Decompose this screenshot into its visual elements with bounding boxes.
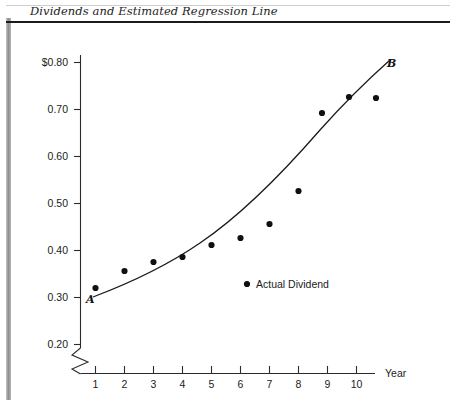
x-tick-label: 5 <box>209 378 215 390</box>
y-tick-label: 0.60 <box>48 150 69 162</box>
y-tick-label: 0.40 <box>48 244 69 256</box>
x-tick-label: 2 <box>122 378 128 390</box>
scatter-points-group <box>92 94 379 291</box>
data-point <box>295 188 301 194</box>
data-point <box>150 259 156 265</box>
x-tick-label: 10 <box>351 378 363 390</box>
y-tick-label: $0.80 <box>42 56 68 68</box>
x-tick-label: 7 <box>267 378 273 390</box>
data-point <box>266 221 272 227</box>
curve-end-label-b: B <box>386 57 396 70</box>
x-tick-label: 1 <box>93 378 99 390</box>
y-tick-label: 0.30 <box>48 291 69 303</box>
x-tick-label: 3 <box>151 378 157 390</box>
x-axis-tick-labels: 1 2 3 4 5 6 7 8 9 10 <box>93 378 363 390</box>
x-tick-label: 6 <box>238 378 244 390</box>
x-tick-label: 9 <box>325 378 331 390</box>
data-point <box>373 95 379 101</box>
y-axis-break-zigzag <box>72 348 88 374</box>
x-axis-title: Year <box>385 367 407 379</box>
data-point <box>92 285 98 291</box>
data-point <box>346 94 352 100</box>
data-point <box>121 268 127 274</box>
data-point <box>319 110 325 116</box>
y-axis-tick-labels: $0.80 0.70 0.60 0.50 0.40 0.30 0.20 <box>42 56 68 350</box>
y-tick-label: 0.20 <box>48 338 69 350</box>
chart-plot-area: $0.80 0.70 0.60 0.50 0.40 0.30 0.20 1 2 … <box>0 0 450 400</box>
figure-container: Dividends and Estimated Regression Line … <box>0 0 450 400</box>
y-axis-ticks <box>74 63 81 345</box>
y-tick-label: 0.70 <box>48 103 69 115</box>
regression-curve <box>93 60 390 297</box>
data-point <box>237 235 243 241</box>
legend-label: Actual Dividend <box>256 278 329 290</box>
x-tick-label: 8 <box>296 378 302 390</box>
chart-legend: Actual Dividend <box>244 278 329 290</box>
data-point <box>179 254 185 260</box>
y-tick-label: 0.50 <box>48 197 69 209</box>
x-axis-ticks <box>96 366 357 374</box>
curve-start-label-a: A <box>85 293 95 306</box>
data-point <box>208 242 214 248</box>
x-tick-label: 4 <box>180 378 186 390</box>
legend-marker-icon <box>244 281 250 287</box>
